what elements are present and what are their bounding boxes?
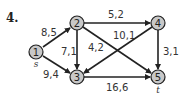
edge-label-2-4: 5,2 xyxy=(108,9,124,20)
edge-label-1-3: 9,4 xyxy=(43,69,59,80)
edge-label-3-5: 16,6 xyxy=(106,82,128,93)
edge-label-4-5: 3,1 xyxy=(163,46,179,57)
edge-label-2-5: 10,1 xyxy=(113,30,135,41)
node-label-2: 2 xyxy=(74,18,80,29)
edge-label-2-3: 7,1 xyxy=(61,46,77,57)
flow-network-diagram: 8,5 9,4 7,1 5,2 10,1 4,2 3,1 16,6 1 2 3 … xyxy=(0,0,182,98)
node-label-4: 4 xyxy=(155,18,161,29)
node-label-3: 3 xyxy=(74,72,80,83)
edge-label-1-2: 8,5 xyxy=(41,27,57,38)
node-label-5: 5 xyxy=(155,72,161,83)
source-label: s xyxy=(34,59,39,69)
sink-label: t xyxy=(156,85,160,95)
node-label-1: 1 xyxy=(33,47,39,58)
edge-label-4-3: 4,2 xyxy=(88,42,104,53)
